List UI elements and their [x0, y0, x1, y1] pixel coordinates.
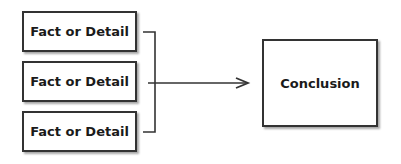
bracket-connector	[143, 32, 155, 132]
conclusion-label: Conclusion	[280, 76, 360, 91]
conclusion-box: Conclusion	[262, 39, 378, 127]
